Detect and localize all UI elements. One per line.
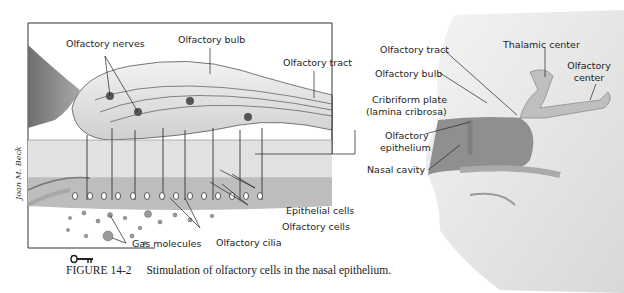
label-olfactory-tract-right: Olfactory tract xyxy=(380,44,449,55)
head-sagittal-section xyxy=(425,10,624,293)
label-olfactory-epithelium-line1: Olfactory xyxy=(385,130,429,141)
figure-caption-text: Stimulation of olfactory cells in the na… xyxy=(146,264,391,276)
label-thalamic-center: Thalamic center xyxy=(503,39,580,50)
label-lamina-cribrosa: (lamina cribrosa) xyxy=(366,106,447,117)
label-olfactory-center-line1: Olfactory xyxy=(564,60,614,71)
label-olfactory-epithelium-line2: epithelium xyxy=(380,142,431,153)
label-olfactory-tract: Olfactory tract xyxy=(283,57,352,68)
key-icon xyxy=(71,256,93,264)
label-olfactory-cilia: Olfactory cilia xyxy=(216,237,282,248)
label-olfactory-bulb: Olfactory bulb xyxy=(178,34,245,45)
label-epithelial-cells: Epithelial cells xyxy=(286,205,354,216)
figure-caption: FIGURE 14-2 Stimulation of olfactory cel… xyxy=(66,264,391,276)
label-nasal-cavity: Nasal cavity xyxy=(367,164,425,175)
label-olfactory-cells: Olfactory cells xyxy=(282,221,350,232)
label-olfactory-bulb-right: Olfactory bulb xyxy=(375,68,442,79)
label-olfactory-center-line2: center xyxy=(564,72,614,83)
label-cribriform-plate: Cribriform plate xyxy=(372,94,447,105)
artist-signature: Joan M. Beck xyxy=(14,146,23,200)
label-gas-molecules: Gas molecules xyxy=(132,238,201,249)
label-olfactory-nerves: Olfactory nerves xyxy=(66,38,145,49)
figure-number: FIGURE 14-2 xyxy=(66,264,132,276)
